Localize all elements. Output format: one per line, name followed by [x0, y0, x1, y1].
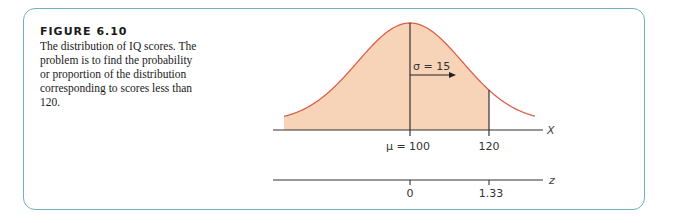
shaded-region [284, 23, 489, 130]
z-axis-label: z [548, 174, 555, 187]
normal-distribution-chart: X μ = 100 120 σ = 15 z 0 1.33 [0, 0, 673, 223]
x-axis-label: X [546, 124, 555, 137]
mu-tick-label: μ = 100 [386, 140, 430, 153]
z133-tick-label: 1.33 [479, 187, 504, 200]
sigma-label: σ = 15 [413, 60, 450, 73]
z0-tick-label: 0 [407, 187, 414, 200]
x120-tick-label: 120 [479, 140, 500, 153]
